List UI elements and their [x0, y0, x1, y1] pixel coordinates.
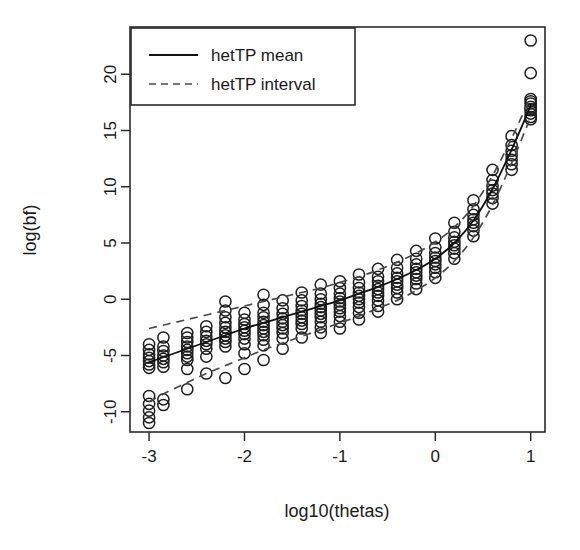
legend-label-mean: hetTP mean — [211, 46, 303, 65]
y-tick-label: 20 — [101, 65, 120, 84]
y-tick-label: 5 — [101, 238, 120, 247]
legend-label-interval: hetTP interval — [211, 75, 316, 94]
y-tick-label: -10 — [101, 399, 120, 424]
x-tick-label: -2 — [237, 447, 252, 466]
x-tick-label: -1 — [332, 447, 347, 466]
scatter-plot-svg: -3-2-101 -10-505101520 log10(thetas) log… — [0, 0, 580, 550]
y-tick-label: 10 — [101, 177, 120, 196]
y-tick-label: -5 — [101, 348, 120, 363]
x-tick-label: -3 — [142, 447, 157, 466]
legend: hetTP mean hetTP interval — [131, 28, 355, 105]
x-tick-label: 1 — [526, 447, 535, 466]
x-tick-label: 0 — [431, 447, 440, 466]
y-tick-label: 15 — [101, 121, 120, 140]
y-axis-title: log(bf) — [20, 204, 40, 255]
x-axis-title: log10(thetas) — [284, 501, 389, 521]
chart-figure: -3-2-101 -10-505101520 log10(thetas) log… — [0, 0, 580, 550]
y-tick-label: 0 — [101, 295, 120, 304]
